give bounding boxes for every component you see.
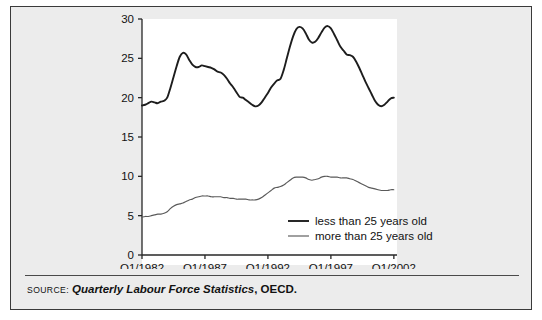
y-tick-label: 30 — [121, 13, 134, 25]
y-tick-label: 15 — [121, 131, 134, 143]
line-chart: 051015202530 Q1/1982Q1/1987Q1/1992Q1/199… — [11, 7, 533, 269]
chart-area: 051015202530 Q1/1982Q1/1987Q1/1992Q1/199… — [11, 7, 533, 269]
y-axis-ticks: 051015202530 — [121, 13, 142, 261]
series-line-less-than-25 — [142, 26, 394, 106]
legend-label: more than 25 years old — [315, 230, 433, 242]
x-tick-label: Q1/1982 — [120, 262, 164, 269]
source-title: Quarterly Labour Force Statistics — [72, 283, 254, 295]
source-label: Source: — [27, 285, 69, 295]
source-publisher: , OECD. — [254, 283, 297, 295]
x-tick-label: Q1/1997 — [309, 262, 353, 269]
source-divider — [25, 275, 519, 276]
y-tick-label: 25 — [121, 52, 134, 64]
y-tick-label: 10 — [121, 170, 134, 182]
x-axis-ticks: Q1/1982Q1/1987Q1/1992Q1/1997Q1/2002 — [120, 255, 416, 269]
y-tick-label: 5 — [128, 210, 134, 222]
source-note: Source: Quarterly Labour Force Statistic… — [27, 283, 297, 295]
legend-label: less than 25 years old — [315, 215, 427, 227]
series-line-more-than-25 — [142, 176, 394, 217]
x-tick-label: Q1/1987 — [183, 262, 227, 269]
y-tick-label: 20 — [121, 92, 134, 104]
chart-legend: less than 25 years oldmore than 25 years… — [288, 215, 433, 242]
x-tick-label: Q1/2002 — [372, 262, 416, 269]
x-tick-label: Q1/1992 — [246, 262, 290, 269]
y-tick-label: 0 — [128, 249, 134, 261]
figure-panel: 051015202530 Q1/1982Q1/1987Q1/1992Q1/199… — [10, 6, 532, 310]
